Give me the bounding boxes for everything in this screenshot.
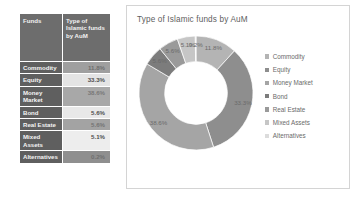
donut-slice-money-market[interactable] bbox=[139, 64, 214, 150]
legend-item-label: Mixed Assets bbox=[273, 119, 310, 126]
donut-label-alternatives: 0.2% bbox=[189, 41, 204, 48]
donut-slices bbox=[139, 36, 253, 150]
donut-label-money-market: 38.6% bbox=[150, 119, 168, 126]
row-label-commodity: Commodity bbox=[20, 62, 63, 74]
row-label-money-market: Money Market bbox=[20, 86, 63, 106]
table-row: Real Estate 5.6% bbox=[20, 119, 111, 131]
legend-item-real-estate[interactable]: Real Estate bbox=[265, 103, 347, 116]
row-label-real-estate: Real Estate bbox=[20, 119, 63, 131]
row-value-bond: 5.6% bbox=[63, 106, 111, 118]
row-value-mixed-assets: 5.1% bbox=[63, 131, 111, 151]
legend-item-label: Real Estate bbox=[273, 106, 306, 113]
chart-title: Type of Islamic funds by AuM bbox=[137, 15, 248, 24]
legend-swatch-icon bbox=[265, 81, 269, 85]
legend-item-alternatives[interactable]: Alternatives bbox=[265, 129, 347, 142]
row-value-money-market: 38.6% bbox=[63, 86, 111, 106]
table-row: Alternatives 0.2% bbox=[20, 151, 111, 163]
table-row: Equity 33.3% bbox=[20, 74, 111, 86]
row-label-bond: Bond bbox=[20, 106, 63, 118]
donut-chart-svg: 11.8%33.3%38.6%5.6%5.6%5.1%0.2% bbox=[135, 32, 257, 154]
donut-label-commodity: 11.8% bbox=[205, 44, 223, 51]
legend-item-bond[interactable]: Bond bbox=[265, 90, 347, 103]
donut-chart: 11.8%33.3%38.6%5.6%5.6%5.1%0.2% bbox=[135, 32, 257, 154]
chart-legend: CommodityEquityMoney MarketBondReal Esta… bbox=[265, 50, 347, 142]
legend-item-commodity[interactable]: Commodity bbox=[265, 50, 347, 63]
legend-item-label: Alternatives bbox=[273, 132, 306, 139]
legend-swatch-icon bbox=[265, 134, 269, 138]
legend-swatch-icon bbox=[265, 54, 269, 58]
legend-swatch-icon bbox=[265, 120, 269, 124]
row-label-mixed-assets: Mixed Assets bbox=[20, 131, 63, 151]
legend-swatch-icon bbox=[265, 107, 269, 111]
table-header-row: Funds Type of Islamic funds by AuM bbox=[20, 14, 111, 62]
table-row: Money Market 38.6% bbox=[20, 86, 111, 106]
row-label-alternatives: Alternatives bbox=[20, 151, 63, 163]
legend-swatch-icon bbox=[265, 68, 269, 72]
legend-item-label: Money Market bbox=[273, 79, 313, 86]
row-value-alternatives: 0.2% bbox=[63, 151, 111, 163]
funds-data-table: Funds Type of Islamic funds by AuM Commo… bbox=[19, 13, 111, 164]
row-value-equity: 33.3% bbox=[63, 74, 111, 86]
donut-label-equity: 33.3% bbox=[234, 99, 252, 106]
legend-swatch-icon bbox=[265, 94, 269, 98]
legend-item-mixed-assets[interactable]: Mixed Assets bbox=[265, 116, 347, 129]
legend-item-label: Commodity bbox=[273, 53, 305, 60]
table-row: Mixed Assets 5.1% bbox=[20, 131, 111, 151]
legend-item-label: Equity bbox=[273, 66, 291, 73]
table-row: Bond 5.6% bbox=[20, 106, 111, 118]
table-row: Commodity 11.8% bbox=[20, 62, 111, 74]
row-label-equity: Equity bbox=[20, 74, 63, 86]
donut-label-real-estate: 5.6% bbox=[166, 47, 181, 54]
legend-item-label: Bond bbox=[273, 93, 288, 100]
table-header-aum: Type of Islamic funds by AuM bbox=[63, 14, 111, 62]
legend-item-money-market[interactable]: Money Market bbox=[265, 76, 347, 89]
legend-item-equity[interactable]: Equity bbox=[265, 63, 347, 76]
donut-label-bond: 5.6% bbox=[153, 57, 168, 64]
row-value-real-estate: 5.6% bbox=[63, 119, 111, 131]
table-header-funds: Funds bbox=[20, 14, 63, 62]
chart-panel: Type of Islamic funds by AuM 11.8%33.3%3… bbox=[126, 5, 350, 189]
row-value-commodity: 11.8% bbox=[63, 62, 111, 74]
